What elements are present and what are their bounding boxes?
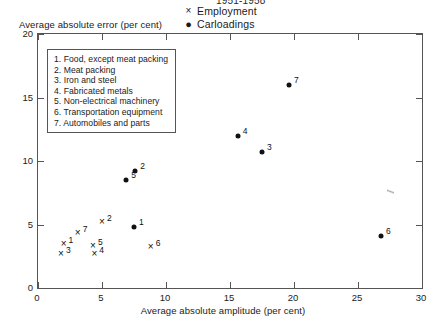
- y-axis-tick: [416, 34, 422, 35]
- x-axis-tick: [358, 282, 359, 288]
- x-axis-tick-label: 30: [416, 292, 427, 303]
- dot-marker-icon: [260, 150, 265, 155]
- y-axis-tick: [38, 288, 44, 289]
- y-axis-tick: [416, 288, 422, 289]
- data-point-label: 5: [98, 238, 103, 247]
- y-axis-tick-label: 10: [7, 155, 33, 166]
- industry-key-box: 1. Food, except meat packing 2. Meat pac…: [47, 49, 176, 133]
- x-axis-tick-label: 10: [160, 292, 171, 303]
- x-axis-tick: [102, 282, 103, 288]
- x-axis-tick-label: 20: [288, 292, 299, 303]
- y-axis-tick: [38, 98, 44, 99]
- cross-marker-icon: ×: [75, 228, 81, 238]
- x-axis-tick-label: 15: [224, 292, 235, 303]
- data-point-label: 6: [156, 239, 161, 248]
- data-point-label: 4: [243, 127, 248, 136]
- data-point-label: 2: [140, 162, 145, 171]
- y-axis-tick: [38, 225, 44, 226]
- data-point-label: 6: [386, 227, 391, 236]
- y-axis-tick-label: 15: [7, 91, 33, 102]
- x-axis-tick: [294, 34, 295, 40]
- y-axis-tick-label: 0: [7, 282, 33, 293]
- y-axis-tick: [416, 225, 422, 226]
- x-axis-tick: [294, 282, 295, 288]
- key-entry: 7. Automobiles and parts: [54, 118, 168, 129]
- x-axis-tick-label: 5: [98, 292, 103, 303]
- key-entry: 6. Transportation equipment: [54, 107, 168, 118]
- y-axis-title: Average absolute error (per cent): [19, 19, 162, 30]
- x-axis-tick: [102, 34, 103, 40]
- data-point-label: 3: [66, 246, 71, 255]
- cross-marker-icon: ×: [99, 217, 105, 227]
- dot-marker-icon: [124, 178, 129, 183]
- x-axis-title: Average absolute amplitude (per cent): [0, 305, 446, 316]
- dot-marker-icon: [286, 82, 291, 87]
- cross-marker-icon: ×: [183, 5, 194, 18]
- data-point-label: 1: [69, 236, 74, 245]
- legend-label: Employment: [197, 5, 257, 18]
- dot-marker-icon: [132, 225, 137, 230]
- dot-marker-icon: [379, 233, 384, 238]
- scan-artifact: [387, 186, 394, 197]
- x-axis-tick: [422, 34, 423, 40]
- data-point-label: 1: [139, 218, 144, 227]
- y-axis-tick: [416, 161, 422, 162]
- cross-marker-icon: ×: [58, 249, 64, 259]
- legend-entry-employment: × Employment: [183, 5, 257, 18]
- data-point-label: 7: [83, 225, 88, 234]
- x-axis-tick: [230, 34, 231, 40]
- x-axis-tick: [166, 282, 167, 288]
- data-point-label: 7: [294, 76, 299, 85]
- x-axis-tick: [166, 34, 167, 40]
- key-entry: 3. Iron and steel: [54, 75, 168, 86]
- key-entry: 4. Fabricated metals: [54, 86, 168, 97]
- y-axis-tick-label: 20: [7, 28, 33, 39]
- data-point-label: 5: [131, 171, 136, 180]
- y-axis-tick-label: 5: [7, 218, 33, 229]
- data-point-label: 3: [267, 143, 272, 152]
- legend-entry-carloadings: ● Carloadings: [183, 18, 257, 31]
- cross-marker-icon: ×: [90, 241, 96, 251]
- key-entry: 5. Non-electrical machinery: [54, 96, 168, 107]
- x-axis-tick: [230, 282, 231, 288]
- legend-label: Carloadings: [197, 18, 255, 31]
- data-point-label: 2: [107, 214, 112, 223]
- dot-marker-icon: ●: [183, 18, 194, 31]
- cross-marker-icon: ×: [148, 242, 154, 252]
- y-axis-tick: [38, 161, 44, 162]
- key-entry: 1. Food, except meat packing: [54, 54, 168, 65]
- y-axis-tick: [38, 34, 44, 35]
- x-axis-tick-label: 0: [34, 292, 39, 303]
- key-entry: 2. Meat packing: [54, 65, 168, 76]
- y-axis-tick: [416, 98, 422, 99]
- x-axis-tick: [358, 34, 359, 40]
- x-axis-tick: [422, 282, 423, 288]
- scatter-chart: 1951-1958 × Employment ● Carloadings Ave…: [0, 0, 446, 321]
- series-legend: × Employment ● Carloadings: [183, 5, 257, 30]
- x-axis-tick-label: 25: [352, 292, 363, 303]
- dot-marker-icon: [235, 133, 240, 138]
